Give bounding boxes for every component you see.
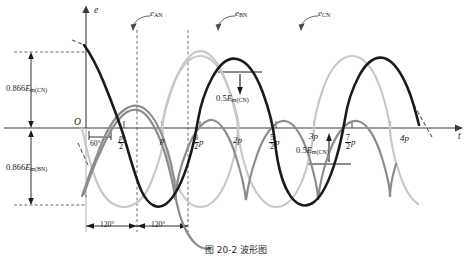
amplitude-label-top: 0.866Em(CN)	[6, 84, 47, 93]
tick-label-3p-over-2: 3 2 p	[193, 134, 204, 151]
curve-label-e-an-sub: AN	[154, 12, 163, 18]
tick-label-3p: 3p	[309, 132, 318, 141]
amplitude-top-value: 0.866	[6, 83, 25, 93]
tick-label-p: p	[160, 136, 165, 145]
half-amplitude-label-upper: 0.5Em(CN)	[216, 94, 249, 103]
label-leaders	[131, 16, 318, 31]
tick-7-suffix: p	[351, 137, 356, 147]
tick-label-4p: 4p	[400, 134, 409, 143]
x-axis-label: t	[458, 132, 461, 142]
waveform-plot	[0, 0, 472, 260]
figure-caption: 图 20-2 波形图	[0, 243, 472, 260]
tick-3-suffix: p	[199, 137, 204, 147]
half-lower-value: 0.5	[296, 145, 307, 155]
half-lower-sub: m(CN)	[312, 149, 329, 155]
curve-label-e-bn: eBN	[235, 9, 247, 18]
tick-label-p-over-2: p 2	[118, 134, 124, 151]
amplitude-label-bottom: 0.866Em(BN)	[6, 163, 47, 172]
origin-label: O	[74, 118, 81, 128]
tick-label-5p-over-2: 5 2 p	[269, 134, 280, 151]
curve-label-e-bn-sub: BN	[239, 12, 247, 18]
tick-1-denominator: 2	[118, 143, 124, 151]
x-axis	[4, 124, 463, 131]
y-axis-label: e	[94, 6, 98, 16]
angle-120-label-a: 120°	[100, 221, 114, 229]
curve-label-e-cn-sub: CN	[322, 12, 330, 18]
amplitude-bottom-value: 0.866	[6, 162, 25, 172]
tick-label-2p: 2p	[233, 136, 242, 145]
amplitude-bottom-sub: m(BN)	[30, 166, 47, 172]
y-axis	[82, 6, 89, 129]
tick-1-fraction: p 2	[118, 134, 124, 151]
angle-60-label: 60°	[90, 140, 101, 148]
tick-label-7p-over-2: 7 2 p	[345, 134, 356, 151]
figure-root: e t O eAN eBN eCN 0.866Em(CN) 0.866Em(BN…	[0, 0, 472, 260]
half-amplitude-label-lower: 0.5Em(CN)	[296, 146, 329, 155]
curve-e-AN-main	[84, 110, 396, 200]
tick-5-suffix: p	[275, 137, 280, 147]
curve-label-e-an: eAN	[150, 9, 163, 18]
curve-label-e-cn: eCN	[318, 9, 330, 18]
amplitude-top-sub: m(CN)	[30, 87, 47, 93]
half-upper-sub: m(CN)	[232, 97, 249, 103]
angle-120-label-b: 120°	[151, 221, 165, 229]
half-upper-value: 0.5	[216, 93, 227, 103]
